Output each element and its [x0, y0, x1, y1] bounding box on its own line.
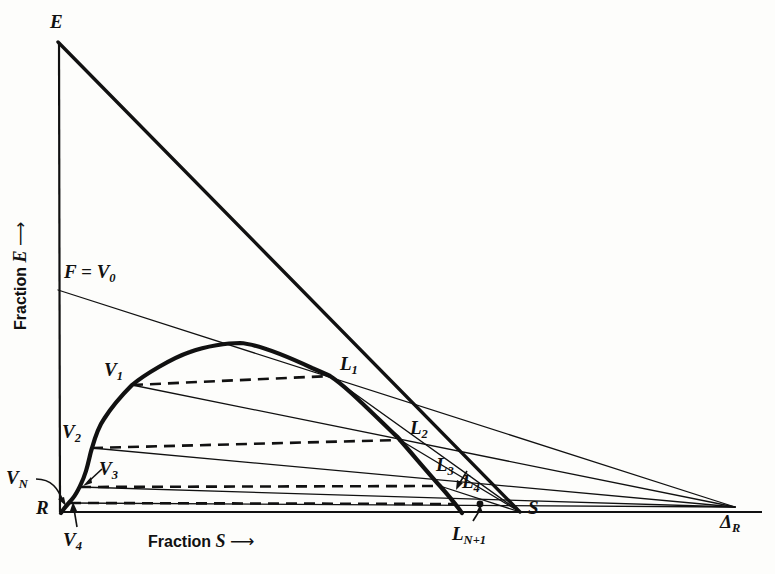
x-axis-arrow-icon: ⟶ [230, 531, 254, 551]
operating-line-F-V0 [58, 290, 735, 507]
side-E-to-S [58, 42, 520, 512]
label-point-delta-R: ΔR [720, 512, 740, 534]
y-axis-label: Fraction E ⟶ [10, 222, 31, 330]
ternary-extraction-figure: E R S ΔR F = V0 V1 V2 V3 V4 VN L1 L2 L3 … [0, 0, 775, 574]
stage-line-L1-S [330, 376, 520, 512]
label-point-V2: V2 [62, 422, 81, 444]
x-axis-label-symbol: S [216, 531, 226, 551]
label-point-V3: V3 [99, 459, 118, 481]
label-point-L4: L4 [462, 472, 480, 494]
label-point-V1: V1 [104, 360, 123, 382]
label-point-L1: L1 [340, 354, 358, 376]
tie-line-V1-L1 [132, 376, 330, 385]
label-point-V4: V4 [63, 530, 82, 552]
axis-y-line [59, 42, 60, 512]
x-axis-label-text: Fraction [148, 533, 211, 550]
label-point-F-V0: F = V0 [64, 262, 116, 284]
tie-line-V2-L2 [92, 440, 400, 448]
stage-lines-group [330, 376, 520, 512]
operating-lines-group [58, 290, 735, 507]
label-point-LN1: LN+1 [452, 524, 486, 546]
plot-canvas [0, 0, 775, 574]
tie-line-V3-L3 [80, 486, 440, 487]
y-axis-label-text: Fraction [12, 267, 29, 330]
y-axis-label-symbol: E [10, 250, 30, 262]
operating-line-V1 [132, 385, 735, 507]
y-axis-arrow-icon: ⟶ [10, 222, 30, 246]
label-point-L3: L3 [436, 455, 454, 477]
label-point-S: S [528, 498, 539, 517]
label-point-VN: VN [6, 468, 28, 490]
x-axis-label: Fraction S ⟶ [148, 531, 254, 552]
label-point-E: E [50, 12, 63, 31]
label-point-R: R [36, 498, 49, 517]
label-point-L2: L2 [410, 418, 428, 440]
